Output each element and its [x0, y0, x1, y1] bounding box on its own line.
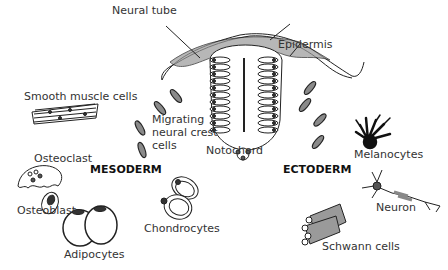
crest-cell: [298, 97, 313, 113]
label-neural-tube: Neural tube: [112, 4, 177, 17]
nucleus: [273, 94, 276, 97]
crest-cell: [303, 80, 318, 96]
schwann-cells-art: [302, 204, 346, 245]
nucleus: [213, 94, 216, 97]
label-migrating-2: neural crest: [152, 126, 218, 139]
nucleus: [273, 73, 276, 76]
melanocyte-art: [356, 115, 390, 148]
neural-tube: [210, 45, 282, 150]
diagram-art: [0, 0, 448, 270]
nucleus: [273, 87, 276, 90]
label-osteoclast: Osteoclast: [34, 152, 92, 165]
crest-cell: [311, 134, 326, 150]
label-migrating-3: cells: [152, 139, 177, 152]
neural-crest-diagram: Neural tube Epidermis Smooth muscle cell…: [0, 0, 448, 270]
nucleus: [273, 108, 276, 111]
nucleus: [273, 129, 276, 132]
crest-cell: [169, 88, 184, 104]
nucleus: [213, 101, 216, 104]
nucleus: [213, 80, 216, 83]
label-osteoblast: Osteoblast: [17, 204, 76, 217]
chondrocytes-art: [161, 172, 202, 223]
smooth-muscle-cells-art: [32, 104, 98, 124]
label-adipocytes: Adipocytes: [64, 248, 124, 261]
nucleus: [213, 108, 216, 111]
nucleus: [273, 122, 276, 125]
label-notochord: Notochord: [206, 144, 263, 157]
nucleus: [213, 122, 216, 125]
label-smooth-muscle: Smooth muscle cells: [24, 90, 137, 103]
nucleus: [213, 59, 216, 62]
label-melanocytes: Melanocytes: [354, 148, 423, 161]
crest-cell: [133, 120, 146, 137]
nucleus: [213, 87, 216, 90]
label-mesoderm: MESODERM: [90, 163, 162, 176]
label-schwann: Schwann cells: [322, 240, 400, 253]
nucleus: [273, 80, 276, 83]
crest-cell: [136, 141, 147, 158]
neural-tube-pointer: [166, 26, 200, 58]
nucleus: [213, 115, 216, 118]
label-chondrocytes: Chondrocytes: [144, 222, 220, 235]
nucleus: [273, 66, 276, 69]
nucleus: [273, 101, 276, 104]
nucleus: [213, 66, 216, 69]
label-migrating-1: Migrating: [152, 113, 204, 126]
nucleus: [273, 59, 276, 62]
label-epidermis: Epidermis: [278, 38, 333, 51]
nucleus: [213, 73, 216, 76]
label-neuron: Neuron: [376, 201, 416, 214]
label-ectoderm: ECTODERM: [283, 163, 352, 176]
osteoclast-art: [18, 166, 62, 188]
nucleus: [273, 115, 276, 118]
crest-cell: [312, 112, 328, 128]
